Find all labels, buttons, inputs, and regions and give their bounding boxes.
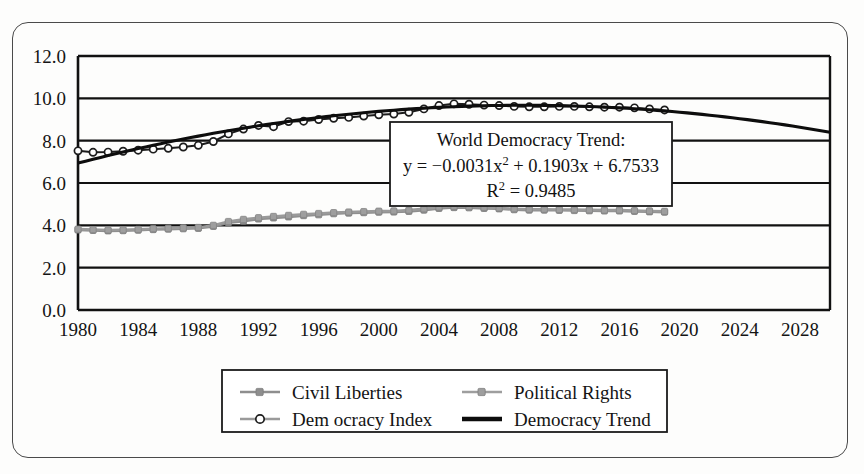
trend-equation-annotation: World Democracy Trend: y = −0.0031x2 + 0… xyxy=(390,122,672,206)
data-point-marker xyxy=(526,206,532,212)
y-tick-label: 10.0 xyxy=(33,88,66,109)
data-point-marker xyxy=(150,226,156,232)
data-point-marker xyxy=(255,215,261,221)
data-point-marker xyxy=(346,209,352,215)
x-tick-label: 1996 xyxy=(300,319,338,340)
data-point-marker xyxy=(631,207,637,213)
x-tick-label: 2004 xyxy=(420,319,459,340)
data-point-marker xyxy=(210,222,216,228)
data-point-marker xyxy=(541,206,547,212)
legend-swatch-marker xyxy=(256,388,263,395)
y-tick-label: 6.0 xyxy=(42,173,66,194)
legend-label: Civil Liberties xyxy=(292,382,402,403)
chart-legend: Civil LibertiesPolitical RightsDem ocrac… xyxy=(222,370,667,432)
y-tick-label: 4.0 xyxy=(42,215,66,236)
data-point-marker xyxy=(285,212,291,218)
data-point-marker xyxy=(301,211,307,217)
data-point-marker xyxy=(75,226,81,232)
x-tick-label: 2012 xyxy=(540,319,578,340)
data-point-marker xyxy=(391,208,397,214)
equation-title: World Democracy Trend: xyxy=(437,130,626,150)
data-point-marker xyxy=(105,227,111,233)
data-point-marker xyxy=(331,210,337,216)
data-point-marker xyxy=(661,208,667,214)
data-point-marker xyxy=(646,208,652,214)
data-point-marker xyxy=(556,206,562,212)
data-point-marker xyxy=(180,143,187,150)
data-point-marker xyxy=(586,207,592,213)
x-tick-label: 2024 xyxy=(721,319,760,340)
y-tick-label: 2.0 xyxy=(42,258,66,279)
x-tick-label: 1980 xyxy=(59,319,97,340)
x-tick-label: 2000 xyxy=(360,319,398,340)
data-point-marker xyxy=(135,226,141,232)
y-tick-label: 8.0 xyxy=(42,131,66,152)
y-axis-tick-labels: 0.02.04.06.08.010.012.0 xyxy=(33,46,66,321)
x-tick-label: 1984 xyxy=(119,319,158,340)
democracy-trend-chart: 0.02.04.06.08.010.012.0 1980198419881992… xyxy=(0,0,864,474)
data-point-marker xyxy=(195,224,201,230)
data-point-marker xyxy=(180,225,186,231)
data-point-marker xyxy=(120,227,126,233)
x-tick-label: 2008 xyxy=(480,319,518,340)
legend-label: Democracy Trend xyxy=(514,409,651,430)
data-point-marker xyxy=(225,218,231,224)
data-point-marker xyxy=(616,207,622,213)
legend-swatch-marker xyxy=(256,415,264,423)
data-point-marker xyxy=(270,213,276,219)
data-point-marker xyxy=(195,142,202,149)
legend-swatch-marker xyxy=(478,388,485,395)
legend-label: Political Rights xyxy=(514,382,632,403)
series-political-rights xyxy=(75,203,668,233)
data-point-marker xyxy=(165,225,171,231)
data-point-marker xyxy=(74,147,81,154)
data-point-marker xyxy=(90,226,96,232)
y-tick-label: 12.0 xyxy=(33,46,66,67)
data-point-marker xyxy=(210,138,217,145)
x-tick-label: 2028 xyxy=(781,319,819,340)
data-point-marker xyxy=(406,207,412,213)
equation-formula: y = −0.0031x2 + 0.1903x + 6.7533 xyxy=(403,154,659,176)
legend-label: Dem ocracy Index xyxy=(292,409,433,430)
data-point-marker xyxy=(376,208,382,214)
data-point-marker xyxy=(89,149,96,156)
x-tick-label: 1988 xyxy=(179,319,217,340)
y-tick-label: 0.0 xyxy=(42,300,66,321)
x-tick-label: 2016 xyxy=(600,319,638,340)
data-point-marker xyxy=(165,145,172,152)
data-point-marker xyxy=(316,210,322,216)
data-point-marker xyxy=(240,216,246,222)
data-point-marker xyxy=(601,207,607,213)
x-tick-label: 2020 xyxy=(661,319,699,340)
data-point-marker xyxy=(571,207,577,213)
figure-root: 0.02.04.06.08.010.012.0 1980198419881992… xyxy=(0,0,864,474)
data-point-marker xyxy=(361,208,367,214)
x-tick-label: 1992 xyxy=(239,319,277,340)
x-axis-tick-labels: 1980198419881992199620002004200820122016… xyxy=(59,319,819,340)
